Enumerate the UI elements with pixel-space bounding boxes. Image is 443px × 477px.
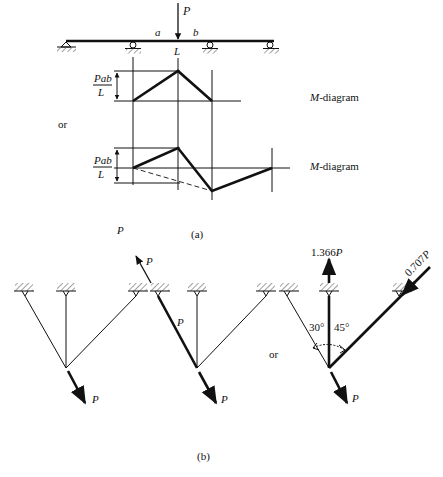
truss3-load-label: P: [351, 392, 359, 404]
moment-numerator: Pab: [93, 72, 112, 84]
load-arrow-icon: [331, 372, 347, 403]
truss-1: P: [14, 283, 148, 405]
length-label: L: [173, 45, 180, 57]
moment-denominator: L: [97, 86, 104, 98]
truss2-upper-force-label: P: [145, 255, 153, 267]
truss-3: 1.366P 0.707P 30° 45° P: [279, 246, 433, 404]
caption-a: (a): [191, 228, 204, 241]
fixed-support-icon: [279, 283, 299, 296]
inclined-force-label: 0.707P: [402, 247, 433, 278]
load-arrow-icon: [199, 372, 216, 403]
fixed-support-icon: [319, 283, 339, 296]
angle-right-label: 45°: [334, 321, 349, 333]
fixed-support-icon: [56, 283, 76, 296]
fixed-support-icon: [256, 283, 276, 296]
moment-numerator-2: Pab: [93, 154, 112, 166]
truss-2: P P P: [136, 255, 276, 405]
projection-lines: [133, 57, 212, 200]
vertical-force-label: 1.366P: [311, 246, 343, 258]
caption-b: (b): [197, 450, 210, 463]
moment-denominator-2: L: [97, 168, 104, 180]
or-label-b: or: [269, 348, 279, 360]
truss1-load-label: P: [91, 393, 99, 405]
span-a-label: a: [155, 26, 161, 38]
load-arrow-icon: [68, 371, 85, 403]
fixed-support-icon: [187, 283, 207, 296]
fixed-support-icon: [128, 283, 148, 296]
truss2-member-force-label: P: [176, 316, 184, 328]
or-label-a: or: [58, 118, 68, 130]
fixed-support-icon: [14, 283, 34, 296]
fixed-support-icon: [150, 283, 170, 296]
load-label: P: [182, 4, 191, 18]
stray-load-label: P: [116, 224, 124, 236]
span-b-label: b: [193, 26, 199, 38]
roller-support-icon: [202, 42, 218, 54]
pin-support-icon: [57, 42, 76, 52]
m-diagram-label-1: M-diagram: [309, 91, 359, 103]
truss2-load-label: P: [220, 393, 228, 405]
roller-support-icon: [125, 42, 141, 54]
diagram-canvas: P a b L Pab L M-diagram or Pab L M-diagr…: [0, 0, 443, 477]
m-diagram-label-2: M-diagram: [309, 160, 359, 172]
continuous-beam: P a b L: [57, 3, 279, 57]
roller-support-icon: [263, 42, 279, 54]
angle-left-label: 30°: [309, 321, 324, 333]
